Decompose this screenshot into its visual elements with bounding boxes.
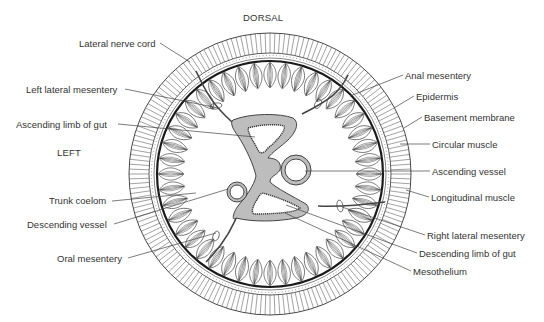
label-longitudinal-muscle: Longitudinal muscle [431, 192, 515, 203]
dorsal-label: DORSAL [243, 12, 283, 23]
label-left-lateral-mesentery: Left lateral mesentery [26, 84, 117, 95]
label-trunk-coelom: Trunk coelom [49, 195, 106, 206]
label-descending-vessel: Descending vessel [27, 219, 107, 230]
label-ascending-vessel: Ascending vessel [432, 166, 506, 177]
label-oral-mesentery: Oral mesentery [57, 253, 122, 264]
label-basement-membrane: Basement membrane [424, 112, 515, 123]
label-right-lateral-mesentery: Right lateral mesentery [427, 230, 525, 241]
label-descending-limb-of-gut: Descending limb of gut [419, 248, 516, 259]
label-anal-mesentery: Anal mesentery [405, 70, 471, 81]
label-ascending-limb-of-gut: Ascending limb of gut [16, 119, 107, 130]
label-circular-muscle: Circular muscle [432, 139, 497, 150]
label-epidermis: Epidermis [416, 91, 458, 102]
label-mesothelium: Mesothelium [413, 266, 467, 277]
left-side-label: LEFT [57, 147, 81, 158]
label-lateral-nerve-cord: Lateral nerve cord [79, 38, 156, 49]
